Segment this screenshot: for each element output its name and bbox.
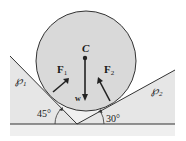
angle-right-label: 30°	[106, 113, 120, 124]
sphere-on-planes-diagram: C w F1 F2 ℘1 ℘2 45° 30°	[0, 0, 186, 141]
center-label: C	[82, 42, 90, 54]
weight-label: w	[75, 94, 81, 103]
angle-left-label: 45°	[37, 108, 51, 119]
ground-band	[10, 124, 175, 136]
